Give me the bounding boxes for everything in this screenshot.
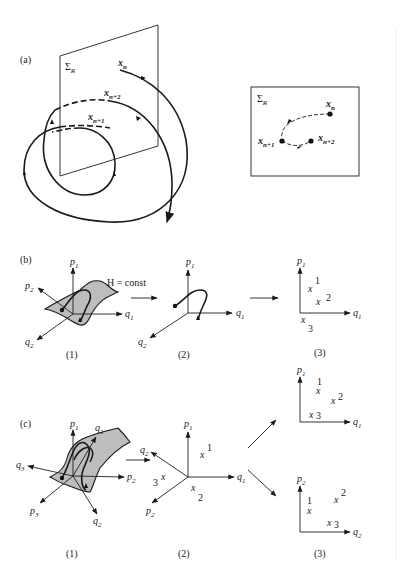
axis-q2 [150, 313, 188, 338]
section-point-1-mark: x [307, 283, 313, 294]
section-point-1-index: 1 [207, 442, 212, 453]
section-point-3-index: 3 [153, 477, 158, 488]
label-q2: q2 [93, 515, 102, 529]
panel-c-3-bottom: p2 q2 1 x x 2 x 3 (3) [296, 473, 362, 560]
axis-q2 [151, 452, 188, 477]
orbit-continuation [110, 101, 172, 222]
orbit-dashed-3 [55, 100, 110, 110]
label-q1: q1 [236, 307, 245, 321]
section-point-3-mark: x [300, 314, 306, 325]
section-point-2-mark: x [315, 296, 321, 307]
label-p1: p1 [69, 418, 79, 432]
orbit-direction-arrow-2 [136, 116, 141, 121]
label-p2: p2 [145, 505, 155, 519]
caption-c1: (1) [66, 548, 78, 560]
panel-c-label: (c) [20, 418, 31, 430]
label-q2: q2 [140, 444, 149, 458]
section-point-2-index: 2 [338, 391, 343, 402]
trajectory-projected [175, 290, 207, 320]
inset-label-x-n-plus-1: xn+1 [257, 135, 274, 149]
inset-frame [251, 87, 359, 176]
inset-sigma-label: ΣR [257, 93, 268, 107]
section-point-3-mark: x [326, 517, 332, 528]
panel-c: (c) p1 q1 q3 p2 p3 q2 (1) [16, 364, 362, 560]
label-h-const: H = const [107, 277, 146, 288]
panel-b-3: p1 q1 x 1 x 2 x 3 (3) [296, 255, 362, 359]
caption-b3: (3) [314, 347, 326, 359]
section-point-1-mark: x [199, 449, 205, 460]
label-q2: q2 [353, 526, 362, 540]
panel-b-label: (b) [20, 254, 32, 266]
panel-c-1: p1 q1 q3 p2 p3 q2 (1) [16, 418, 136, 560]
section-point-2-index: 2 [198, 492, 203, 503]
panel-a-label: (a) [20, 54, 31, 66]
section-point-2-index: 2 [326, 292, 331, 303]
caption-b2: (2) [178, 349, 190, 361]
label-p1: p1 [296, 364, 306, 378]
section-point-1-mark: x [306, 505, 312, 516]
orbit-direction-arrow-5 [50, 119, 54, 124]
label-q2: q2 [138, 336, 147, 350]
axis-q2 [37, 314, 73, 340]
section-point-2-mark: x [330, 395, 336, 406]
panel-b: (b) p1 p2 q1 q2 (1) H = const [20, 254, 362, 361]
label-q1: q1 [353, 307, 362, 321]
trajectory-start-point [60, 308, 64, 312]
section-point-1-index: 1 [315, 275, 320, 286]
orbit-inner [43, 128, 115, 195]
panel-c-2: p1 q2 q1 p2 x 1 x 2 x 3 (2) [140, 418, 246, 560]
label-p2: p2 [24, 280, 34, 294]
label-p1: p1 [185, 256, 195, 270]
inset-section: ΣR xn xn+1 xn+2 [251, 87, 359, 176]
label-x-n: xn [117, 57, 127, 71]
section-point-2-index: 2 [341, 487, 346, 498]
inset-arrowhead-2 [297, 146, 302, 149]
label-p2: p2 [296, 473, 306, 487]
label-q1: q1 [353, 416, 362, 430]
section-point-3-index: 3 [334, 519, 339, 530]
inset-label-x-n: xn [325, 98, 335, 112]
section-point-3-mark: x [308, 409, 314, 420]
label-x-n-plus-1: xn+1 [87, 111, 104, 125]
label-p2: p2 [126, 471, 136, 485]
label-q1: q1 [237, 471, 246, 485]
orbit-link [44, 110, 55, 140]
panel-c-3-top: p1 q1 1 x x 2 x 3 [296, 364, 362, 430]
caption-c3: (3) [314, 548, 326, 560]
label-q2: q2 [25, 336, 34, 350]
inset-point-x-n [327, 111, 332, 116]
inset-map-arrow-2 [282, 141, 311, 146]
panel-b-1: p1 p2 q1 q2 (1) [24, 256, 134, 361]
trajectory-start-point [173, 304, 177, 308]
label-p1: p1 [296, 255, 306, 269]
map-arrow-to-bottom [248, 470, 276, 496]
label-q3: q3 [16, 459, 25, 473]
label-p3: p3 [29, 505, 39, 519]
caption-c2: (2) [178, 548, 190, 560]
section-point-3-index: 3 [308, 323, 313, 334]
label-x-n-plus-2: xn+2 [103, 87, 121, 101]
energy-surface [50, 428, 130, 492]
section-point-2-mark: x [333, 494, 339, 505]
label-p1: p1 [183, 418, 193, 432]
inset-point-x-n-plus-2 [308, 138, 313, 143]
inset-point-x-n-plus-1 [279, 138, 284, 143]
section-point-3-mark: x [160, 471, 166, 482]
label-p1: p1 [69, 256, 79, 270]
section-point-2-mark: x [190, 482, 196, 493]
label-q1: q1 [125, 308, 134, 322]
map-arrow-to-top [248, 420, 276, 448]
caption-b1: (1) [66, 349, 78, 361]
section-point-3-index: 3 [316, 410, 321, 421]
panel-b-2: p1 q1 q2 (2) [138, 256, 245, 361]
section-point-1-mark: x [315, 385, 321, 396]
panel-a: (a) ΣR xn xn+2 xn+1 ΣR [20, 25, 359, 222]
orbit-dashed-2 [52, 128, 80, 132]
inset-label-x-n-plus-2: xn+2 [317, 132, 335, 146]
plane-sigma-label: ΣR [65, 61, 76, 75]
trajectory-start-point [60, 476, 64, 480]
poincare-section-figure: (a) ΣR xn xn+2 xn+1 ΣR [0, 0, 401, 576]
